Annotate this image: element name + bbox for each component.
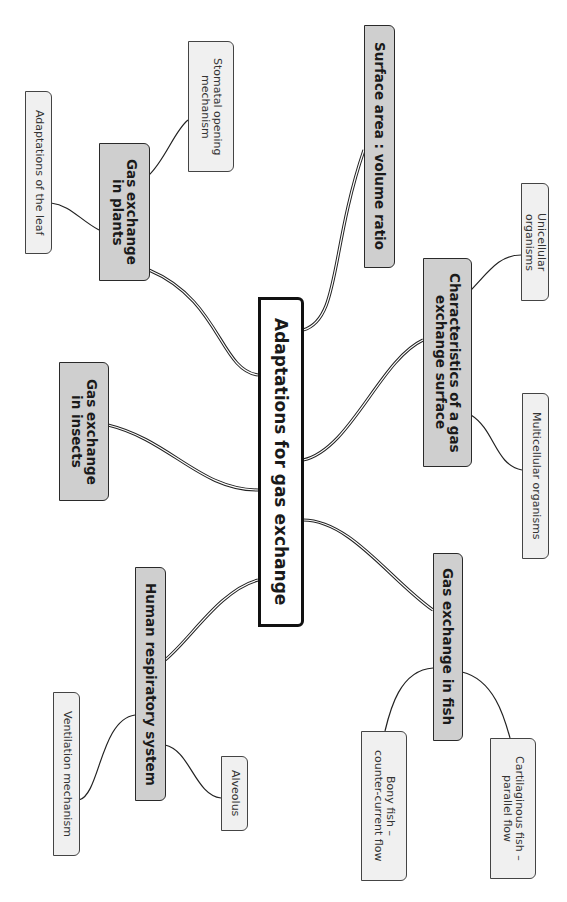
leaf-label: Unicellular organisms xyxy=(523,184,547,300)
branch-plants: Gas exchange in plants xyxy=(99,143,150,281)
branch-human-respiratory: Human respiratory system xyxy=(135,567,166,801)
leaf-cartilaginous-fish: Cartilaginous fish – parallel flow xyxy=(490,738,536,879)
branch-label: Characteristics of a gas exchange surfac… xyxy=(433,273,463,453)
leaf-label: Adaptations of the leaf xyxy=(32,110,44,235)
branch-label: Surface area : volume ratio xyxy=(372,42,387,250)
leaf-label: Alveolus xyxy=(228,770,240,816)
leaf-label: Bony fish – counter-current flow xyxy=(372,750,396,861)
branch-label: Gas exchange in insects xyxy=(69,379,99,485)
leaf-stomatal: Stomatal opening mechanism xyxy=(188,41,234,172)
leaf-label: Multicellular organisms xyxy=(529,412,541,540)
central-node-label: Adaptations for gas exchange xyxy=(272,318,291,605)
leaf-adaptations-of-leaf: Adaptations of the leaf xyxy=(25,91,52,254)
leaf-label: Cartilaginous fish – parallel flow xyxy=(501,756,525,861)
leaf-bony-fish: Bony fish – counter-current flow xyxy=(361,731,407,881)
leaf-label: Stomatal opening mechanism xyxy=(199,58,223,156)
leaf-alveolus: Alveolus xyxy=(221,756,248,831)
leaf-multicellular: Multicellular organisms xyxy=(522,393,549,559)
branch-fish: Gas exchange in fish xyxy=(433,553,463,741)
branch-label: Gas exchange in plants xyxy=(110,159,140,265)
central-node: Adaptations for gas exchange xyxy=(258,297,304,627)
branch-insects: Gas exchange in insects xyxy=(59,362,109,501)
leaf-unicellular: Unicellular organisms xyxy=(521,183,549,301)
branch-label: Human respiratory system xyxy=(143,583,158,786)
branch-label: Gas exchange in fish xyxy=(441,568,456,725)
branch-characteristics: Characteristics of a gas exchange surfac… xyxy=(423,258,472,467)
leaf-ventilation: Ventilation mechanism xyxy=(53,692,80,856)
branch-surface-area: Surface area : volume ratio xyxy=(364,25,395,268)
leaf-label: Ventilation mechanism xyxy=(60,711,72,837)
